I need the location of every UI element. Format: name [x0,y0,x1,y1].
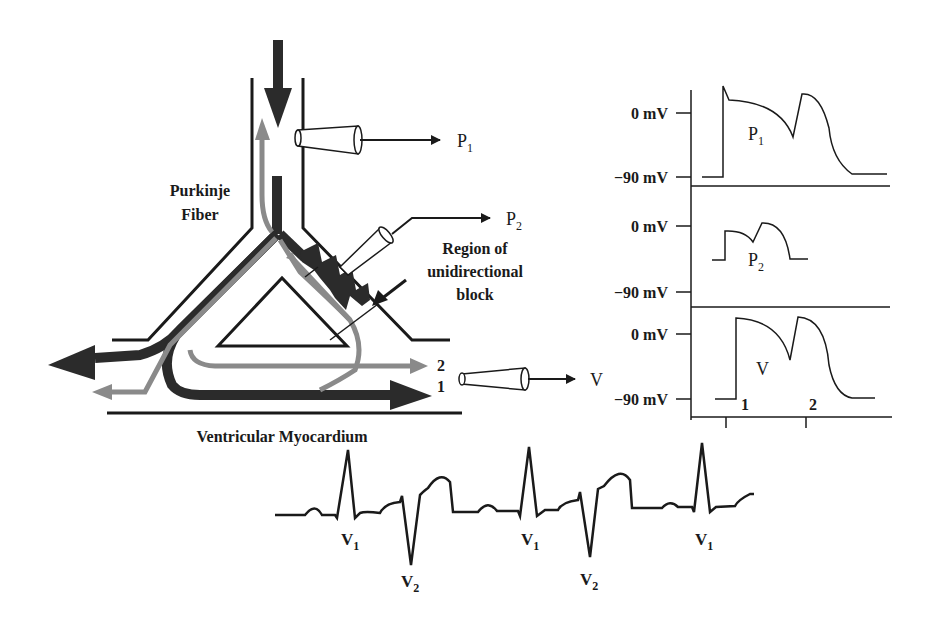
gray-left-arrow-icon [92,384,112,400]
v-90mv-tick: −90 mV [614,391,668,408]
v-trace [715,317,875,399]
electrode-p1 [295,126,440,154]
path-1-arrow-icon [390,380,432,410]
p1-trace [702,86,887,177]
fiber-label: Fiber [181,206,218,223]
p2-90mv-tick: −90 mV [614,284,668,301]
p1-0mv-tick: 0 mV [631,105,668,122]
v-marker-1: 1 [741,396,749,413]
reentry-diagram: Purkinje Fiber Region of unidirectional … [0,0,925,628]
block-label-2: unidirectional [427,263,523,280]
block-label-3: block [456,286,493,303]
gray-pathway [112,140,415,392]
path-1-label: 1 [437,378,445,395]
electrode-v [459,368,575,390]
p2-trace-label: P2 [748,250,764,274]
ecg-label-v2: V2 [580,570,598,593]
incoming-arrow-head-icon [264,88,292,128]
left-exit-arrow-icon [48,345,95,380]
ecg-label-v1: V1 [695,530,713,553]
block-label-1: Region of [442,240,508,258]
v-trace-label: V [756,359,769,379]
ecg-label-v1: V1 [521,530,539,553]
ecg-beat-labels: V1 V2 V1 V2 V1 [341,530,713,595]
p1-trace-label: P1 [748,124,764,148]
p2-trace [712,223,808,260]
p1-90mv-tick: −90 mV [614,169,668,186]
p2-0mv-tick: 0 mV [631,218,668,235]
dark-pathway [48,40,432,410]
path-2-arrow-icon [410,358,428,374]
electrode-p1-label: P1 [457,131,473,155]
electrode-p2-label: P2 [506,209,522,233]
incoming-arrow-shaft [273,40,283,88]
action-potential-panels [676,86,892,428]
path-2-label: 2 [437,357,445,374]
gray-up-arrow-icon [255,118,270,140]
electrode-v-label: V [590,370,603,390]
myocardium-label: Ventricular Myocardium [196,428,368,446]
ecg-label-v2: V2 [401,572,419,595]
v-marker-2: 2 [809,396,817,413]
v-0mv-tick: 0 mV [631,326,668,343]
ecg-label-v1: V1 [341,530,359,553]
purkinje-label: Purkinje [170,182,230,200]
